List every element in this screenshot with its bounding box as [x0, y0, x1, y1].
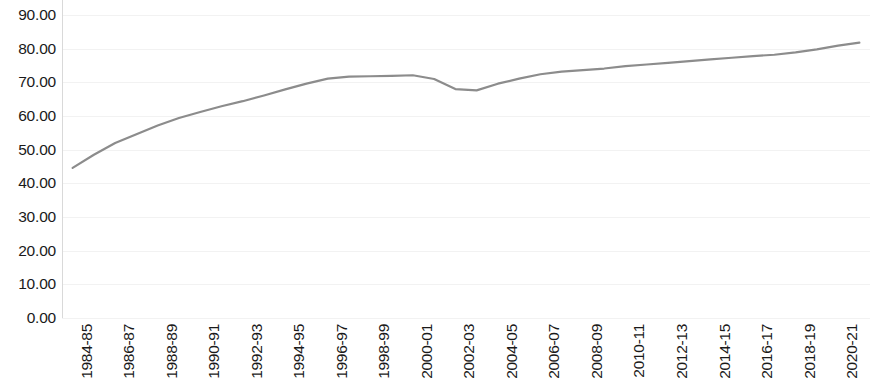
- x-tick-label: 1994-95: [291, 324, 307, 379]
- x-tick-label: 1990-91: [206, 324, 222, 379]
- y-tick-label: 10.00: [18, 276, 56, 292]
- plot-area: [62, 0, 870, 324]
- x-tick-label: 1998-99: [376, 324, 392, 379]
- data-series-line: [62, 0, 870, 324]
- x-tick-label: 2006-07: [546, 324, 562, 379]
- y-tick-label: 50.00: [18, 142, 56, 158]
- y-tick-label: 70.00: [18, 74, 56, 90]
- line-chart: 90.0080.0070.0060.0050.0040.0030.0020.00…: [0, 0, 870, 390]
- x-axis: 1984-851986-871988-891990-911992-931994-…: [62, 318, 870, 390]
- y-tick-label: 80.00: [18, 41, 56, 57]
- x-tick-label: 2010-11: [631, 324, 647, 378]
- y-tick-label: 0.00: [27, 310, 56, 326]
- x-tick-label: 2020-21: [844, 324, 860, 379]
- x-tick-label: 2012-13: [674, 324, 690, 379]
- y-tick-label: 60.00: [18, 108, 56, 124]
- x-tick-label: 1984-85: [79, 324, 95, 379]
- x-tick-label: 1992-93: [249, 324, 265, 379]
- y-tick-label: 90.00: [18, 7, 56, 23]
- x-tick-label: 1996-97: [334, 324, 350, 379]
- x-tick-label: 2008-09: [589, 324, 605, 379]
- x-tick-label: 2002-03: [461, 324, 477, 379]
- x-tick-label: 2000-01: [419, 324, 435, 379]
- x-tick-label: 2014-15: [717, 324, 733, 379]
- x-tick-label: 2016-17: [759, 324, 775, 379]
- x-tick-label: 2004-05: [504, 324, 520, 379]
- y-tick-label: 40.00: [18, 175, 56, 191]
- x-tick-label: 1988-89: [164, 324, 180, 379]
- y-tick-label: 20.00: [18, 243, 56, 259]
- y-tick-label: 30.00: [18, 209, 56, 225]
- x-tick-label: 1986-87: [121, 324, 137, 379]
- x-tick-label: 2018-19: [802, 324, 818, 379]
- y-axis: 90.0080.0070.0060.0050.0040.0030.0020.00…: [0, 0, 62, 330]
- series-path: [73, 43, 860, 168]
